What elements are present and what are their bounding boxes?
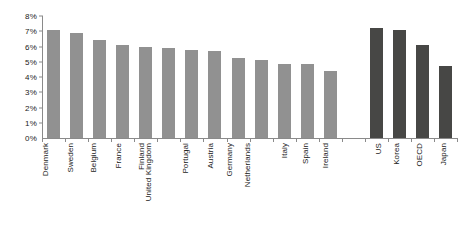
x-axis-label-slot: US: [365, 141, 388, 225]
x-axis-label: Italy: [281, 128, 290, 143]
x-axis-label: Ireland: [322, 118, 331, 143]
x-axis-tick-mark: [457, 138, 458, 142]
bar-slot: [273, 16, 296, 138]
bar: [162, 48, 175, 138]
x-axis-label-slot: Ireland: [319, 141, 342, 225]
x-axis-label: United Kingdom: [144, 85, 153, 143]
y-axis-tick-label: 6%: [25, 42, 37, 51]
x-axis-label-slot: Austria: [203, 141, 226, 225]
x-axis-label: Netherlands: [243, 99, 252, 143]
y-axis-tick-label: 0%: [25, 134, 37, 143]
x-axis-labels: DenmarkSwedenBelgiumFranceFinlandUnited …: [42, 141, 457, 225]
y-axis-tick-label: 2%: [25, 103, 37, 112]
x-axis-label: Germany: [225, 109, 234, 143]
x-axis-label: Belgium: [89, 113, 98, 143]
bar-slot: [296, 16, 319, 138]
y-axis-tick-label: 8%: [25, 12, 37, 21]
y-axis-tick-label: 5%: [25, 57, 37, 66]
x-axis-label-slot: [342, 141, 365, 225]
x-axis-label-slot: OECD: [411, 141, 434, 225]
bar-slot: [365, 16, 388, 138]
bar-chart: 8%7%6%5%4%3%2%1%0% DenmarkSwedenBelgiumF…: [0, 0, 467, 226]
x-axis-label-slot: Korea: [388, 141, 411, 225]
x-axis-label-slot: Sweden: [65, 141, 88, 225]
y-axis-tick-label: 7%: [25, 27, 37, 36]
x-axis-label-slot: Denmark: [42, 141, 65, 225]
x-axis-label: US: [375, 132, 384, 143]
x-axis-label-slot: Portugal: [180, 141, 203, 225]
x-axis-label: Sweden: [66, 113, 75, 143]
y-axis-tick-label: 3%: [25, 88, 37, 97]
x-axis-label-slot: Japan: [434, 141, 457, 225]
x-axis-label-slot: Belgium: [88, 141, 111, 225]
bar-slot: [388, 16, 411, 138]
x-axis-label-slot: Spain: [296, 141, 319, 225]
bar-slot: [434, 16, 457, 138]
x-axis-label-slot: Italy: [273, 141, 296, 225]
bar: [370, 28, 383, 138]
y-axis-tick-label: 4%: [25, 73, 37, 82]
x-axis-label: Portugal: [181, 112, 190, 143]
x-axis-label: Denmark: [41, 110, 50, 143]
x-axis-label-slot: Netherlands: [250, 141, 273, 225]
x-axis-label-slot: United Kingdom: [157, 141, 180, 225]
x-axis-label: Austria: [206, 117, 215, 143]
y-axis-tick-label: 1%: [25, 118, 37, 127]
x-axis-label: Japan: [438, 121, 447, 143]
bar-gap-slot: [342, 16, 365, 138]
bar: [255, 60, 268, 138]
x-axis-label-slot: France: [111, 141, 134, 225]
x-axis-label: Korea: [393, 121, 402, 143]
x-axis-label: Spain: [301, 122, 310, 143]
bar-slot: [250, 16, 273, 138]
x-axis-label: OECD: [415, 119, 424, 143]
x-axis-label: France: [114, 118, 123, 144]
bar-slot: [157, 16, 180, 138]
